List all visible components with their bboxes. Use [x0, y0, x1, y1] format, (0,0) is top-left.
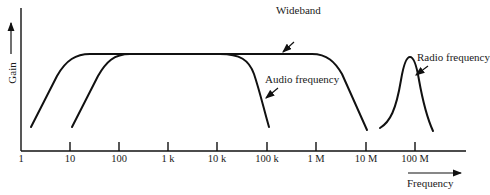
audio-frequency-label: Audio frequency — [265, 73, 340, 85]
wideband-pointer-icon — [283, 42, 294, 52]
tick-label: 1 — [18, 153, 23, 164]
x-ticks — [70, 142, 415, 151]
wideband-label: Wideband — [276, 4, 321, 16]
tick-label: 100 M — [401, 153, 429, 164]
tick-label: 10 — [65, 153, 76, 164]
tick-label: 1 k — [161, 153, 175, 164]
gain-label: Gain — [6, 62, 18, 84]
tick-label: 100 — [111, 153, 127, 164]
wideband-curve — [31, 54, 367, 130]
tick-label: 1 M — [307, 153, 325, 164]
frequency-response-diagram: Gain 1 10 100 1 k 10 k 100 k 1 M 10 M 10… — [0, 0, 490, 195]
gain-axis-label: Gain — [6, 23, 18, 84]
radio-frequency-label: Radio frequency — [417, 51, 490, 63]
tick-label: 10 k — [208, 153, 227, 164]
tick-label: 10 M — [355, 153, 378, 164]
audio-frequency-curve — [72, 54, 269, 127]
x-tick-labels: 1 10 100 1 k 10 k 100 k 1 M 10 M 100 M — [18, 153, 429, 164]
frequency-label: Frequency — [407, 177, 454, 189]
audio-pointer-icon — [266, 88, 278, 98]
tick-label: 100 k — [255, 153, 279, 164]
